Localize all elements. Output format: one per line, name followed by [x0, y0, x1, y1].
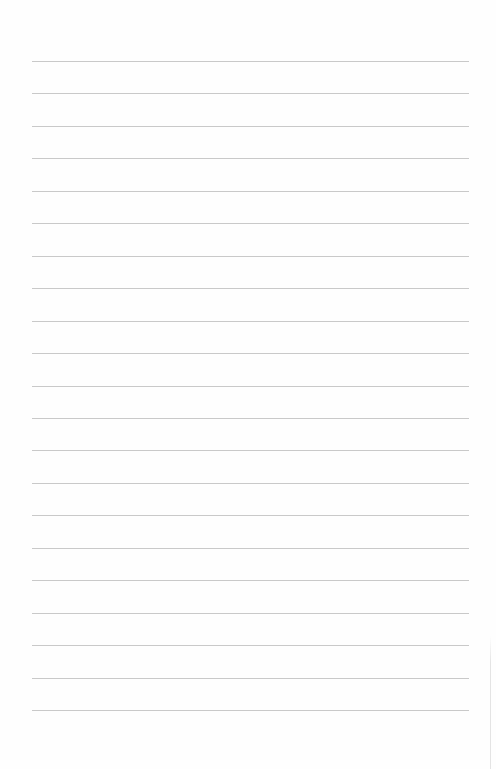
- ruled-line: [32, 645, 469, 646]
- ruled-line: [32, 710, 469, 711]
- ruled-line: [32, 93, 469, 94]
- ruled-line: [32, 256, 469, 257]
- ruled-line: [32, 353, 469, 354]
- ruled-line: [32, 483, 469, 484]
- ruled-line: [32, 191, 469, 192]
- ruled-line: [32, 613, 469, 614]
- ruled-line: [32, 678, 469, 679]
- ruled-line: [32, 515, 469, 516]
- ruled-line: [32, 126, 469, 127]
- ruled-line: [32, 223, 469, 224]
- ruled-line: [32, 386, 469, 387]
- ruled-line: [32, 548, 469, 549]
- ruled-line: [32, 450, 469, 451]
- ruled-line: [32, 158, 469, 159]
- page-edge-shadow: [490, 636, 491, 769]
- ruled-line: [32, 288, 469, 289]
- lined-paper-page: [0, 0, 496, 769]
- ruled-line: [32, 418, 469, 419]
- ruled-line: [32, 580, 469, 581]
- ruled-line: [32, 321, 469, 322]
- ruled-line: [32, 61, 469, 62]
